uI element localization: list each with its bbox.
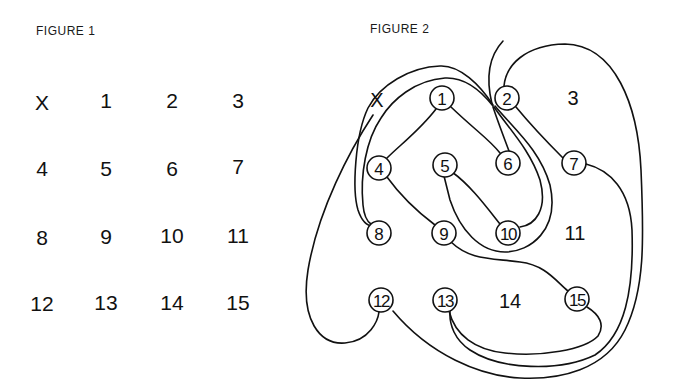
node-label: 15 — [569, 291, 586, 310]
circled-node-4: 4 — [367, 156, 391, 180]
node-label: 10 — [500, 225, 517, 244]
circled-node-2: 2 — [495, 86, 519, 110]
figure-2-nodes: X124567891012131531114 — [367, 86, 589, 312]
node-label: 8 — [374, 225, 383, 244]
node-label: 13 — [437, 292, 454, 311]
plain-node-11: 11 — [565, 222, 586, 244]
circled-node-7: 7 — [562, 151, 586, 175]
path-4-to-9 — [387, 177, 435, 225]
node-label: 5 — [440, 157, 449, 176]
node-label: 9 — [439, 225, 448, 244]
figure-2-diagram: X124567891012131531114 — [0, 0, 676, 392]
circled-node-1: 1 — [430, 86, 454, 110]
path-15-to-13-inner — [449, 307, 601, 354]
path-5-to-10 — [452, 172, 500, 224]
node-label: 4 — [374, 160, 383, 179]
path-9-to-15 — [451, 242, 568, 291]
circled-node-9: 9 — [432, 221, 456, 245]
circled-node-13: 13 — [433, 288, 457, 312]
circled-node-10: 10 — [496, 221, 520, 245]
node-label: 6 — [503, 155, 512, 174]
node-label: 1 — [437, 90, 446, 109]
path-1-to-6 — [451, 107, 500, 153]
circled-node-8: 8 — [367, 221, 391, 245]
circled-node-12: 12 — [369, 288, 393, 312]
route-paths — [306, 41, 642, 378]
circled-node-6: 6 — [496, 151, 520, 175]
node-label: 2 — [502, 90, 511, 109]
path-7-to-13-outer — [450, 164, 632, 366]
start-label-x: X — [370, 89, 383, 111]
path-1-to-4 — [387, 109, 436, 158]
path-2-to-7 — [516, 107, 563, 158]
node-label: 7 — [569, 155, 578, 174]
plain-node-3: 3 — [567, 87, 578, 109]
circled-node-15: 15 — [565, 287, 589, 311]
node-label: 12 — [373, 292, 390, 311]
plain-node-14: 14 — [499, 290, 521, 312]
circled-node-5: 5 — [433, 153, 457, 177]
